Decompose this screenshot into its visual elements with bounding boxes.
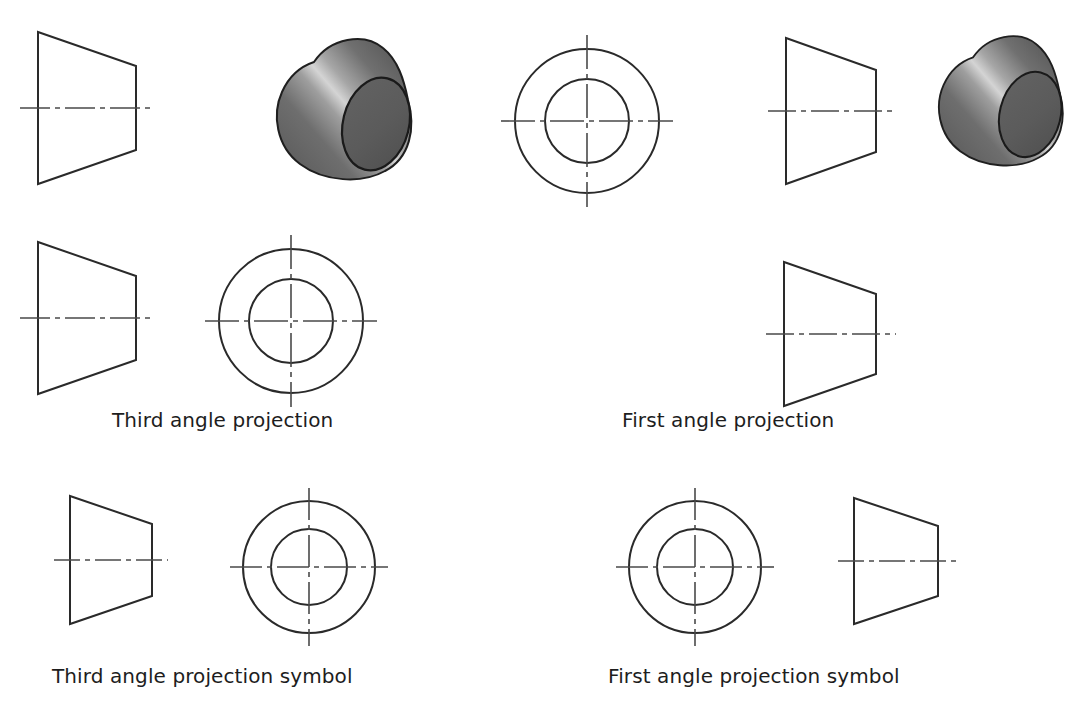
third-angle-top-view-trapezoid — [18, 228, 178, 408]
first-angle-lower-view-trapezoid — [752, 246, 922, 421]
outer-circle — [219, 249, 363, 393]
caption-first-angle-projection: First angle projection — [622, 408, 834, 432]
caption-third-angle-projection-symbol: Third angle projection symbol — [52, 664, 353, 688]
third-angle-pictorial-frustum — [252, 18, 442, 203]
third-angle-symbol-circles — [222, 480, 397, 655]
first-angle-end-view-circles — [492, 26, 682, 216]
third-angle-front-view-trapezoid — [18, 18, 178, 198]
first-angle-front-view-trapezoid — [762, 26, 922, 201]
outer-circle — [515, 49, 659, 193]
third-angle-end-view-circles — [196, 226, 386, 416]
first-angle-pictorial-frustum — [916, 12, 1091, 192]
first-angle-symbol-trapezoid — [826, 484, 976, 644]
caption-third-angle-projection: Third angle projection — [112, 408, 333, 432]
diagram-canvas: Third angle projection — [0, 0, 1092, 722]
caption-first-angle-projection-symbol: First angle projection symbol — [608, 664, 900, 688]
third-angle-symbol-trapezoid — [52, 484, 192, 644]
first-angle-symbol-circles — [608, 480, 783, 655]
